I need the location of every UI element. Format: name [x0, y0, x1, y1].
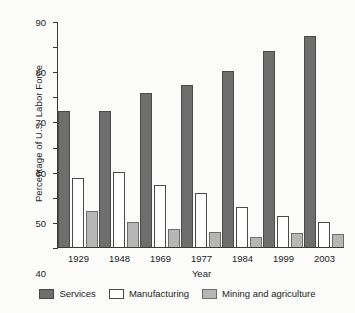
x-tick-label: 1948 — [99, 253, 140, 264]
y-tick-label: 80 — [35, 67, 46, 78]
bar-manufacturing — [318, 222, 330, 247]
legend-label: Services — [59, 288, 95, 299]
y-tick-label: 50 — [35, 217, 46, 228]
bar-chart: Percentage of U.S. Labor Force 010203040… — [0, 0, 355, 313]
bar-services — [58, 111, 70, 247]
bar-manufacturing — [277, 216, 289, 247]
x-axis-tick-labels: 1929194819691977198419992003 — [58, 253, 345, 264]
bar-manufacturing — [195, 193, 207, 247]
legend-swatch-manufacturing — [109, 289, 124, 299]
x-axis-title: Year — [0, 268, 355, 279]
bar-services — [181, 85, 193, 247]
legend-label: Mining and agriculture — [222, 288, 315, 299]
bar-mining — [332, 234, 344, 247]
bar-services — [304, 36, 316, 247]
y-axis-title: Percentage of U.S. Labor Force — [33, 34, 44, 234]
legend-swatch-services — [39, 289, 54, 299]
bar-manufacturing — [113, 172, 125, 247]
y-tick-label: 70 — [35, 117, 46, 128]
x-axis-line — [57, 247, 344, 248]
bar-group — [221, 22, 262, 247]
y-tick-label: 60 — [35, 167, 46, 178]
y-tick: 0 — [53, 248, 58, 249]
chart-legend: ServicesManufacturingMining and agricult… — [0, 288, 355, 299]
bar-group — [181, 22, 222, 247]
legend-item: Mining and agriculture — [202, 288, 315, 299]
bar-mining — [291, 233, 303, 247]
legend-item: Services — [39, 288, 95, 299]
bar-mining — [250, 237, 262, 247]
bar-mining — [209, 232, 221, 247]
x-tick-label: 1977 — [181, 253, 222, 264]
y-tick-label: 90 — [35, 17, 46, 28]
bar-services — [222, 71, 234, 247]
legend-swatch-mining — [202, 289, 217, 299]
bar-mining — [86, 211, 98, 247]
bar-manufacturing — [154, 185, 166, 247]
bar-groups — [58, 22, 344, 247]
legend-item: Manufacturing — [109, 288, 189, 299]
bar-manufacturing — [236, 207, 248, 247]
bar-group — [140, 22, 181, 247]
legend-label: Manufacturing — [129, 288, 189, 299]
bar-manufacturing — [72, 178, 84, 247]
x-tick-label: 2003 — [304, 253, 345, 264]
bar-group — [58, 22, 99, 247]
bar-mining — [127, 222, 139, 247]
bar-group — [303, 22, 344, 247]
x-tick-label: 1984 — [222, 253, 263, 264]
bar-services — [99, 111, 111, 247]
x-tick-label: 1929 — [58, 253, 99, 264]
bar-mining — [168, 229, 180, 247]
bar-services — [263, 51, 275, 247]
plot-area: 0102030405060708090 — [57, 22, 344, 248]
x-tick-label: 1969 — [140, 253, 181, 264]
bar-group — [262, 22, 303, 247]
bar-group — [99, 22, 140, 247]
bar-services — [140, 93, 152, 247]
x-tick-label: 1999 — [263, 253, 304, 264]
